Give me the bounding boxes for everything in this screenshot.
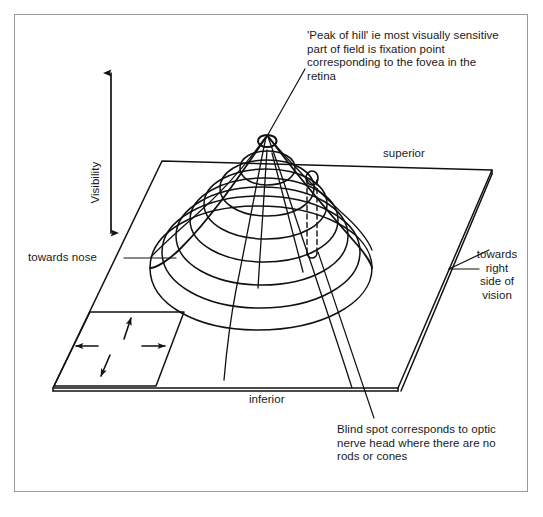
leader-peak	[266, 69, 305, 138]
axis-label-visibility: Visibility	[89, 162, 103, 204]
axis-label-inferior: inferior	[249, 393, 285, 407]
annotation-peak-of-hill: 'Peak of hill' ie most visually sensitiv…	[307, 29, 507, 83]
annotation-blind-spot: Blind spot corresponds to optic nerve he…	[337, 423, 512, 464]
figure-page: 'Peak of hill' ie most visually sensitiv…	[0, 0, 543, 517]
axis-label-towards-right-side-of-vision: towards right side of vision	[466, 248, 528, 302]
inset-arrows	[76, 318, 165, 376]
leader-blind-spot	[318, 252, 374, 418]
axis-label-towards-nose: towards nose	[28, 251, 97, 265]
axis-label-superior: superior	[383, 147, 425, 161]
base-plane	[53, 161, 492, 391]
inset-square	[54, 312, 184, 386]
